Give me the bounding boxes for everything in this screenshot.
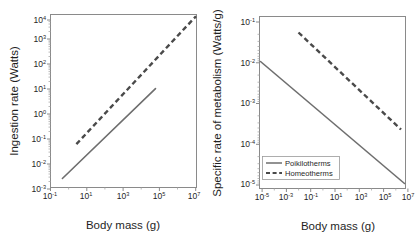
left-y-ticklabels: 10-3 10-2 10-1 100 101 102 103: [32, 15, 46, 194]
right-xtick-label: 103: [355, 192, 368, 202]
right-ytick-label: 10-1: [241, 17, 255, 27]
left-x-major-ticks: [51, 188, 196, 192]
left-xtick-label: 105: [153, 191, 166, 201]
right-y-ticklabels: 10-1 10-2 10-3 10-4 10-5: [241, 17, 255, 189]
right-xtick-label: 101: [330, 192, 343, 202]
right-series-homeotherms: [299, 33, 402, 130]
left-y-axis-title: Ingestion rate (Watts): [8, 46, 20, 156]
right-plot-svg: Specific rate of metabolism (Watts/g) Bo…: [205, 0, 415, 238]
right-ytick-label: 10-4: [241, 139, 255, 149]
left-xtick-label: 10-1: [43, 191, 57, 201]
left-ytick-label: 10-2: [32, 159, 46, 169]
right-x-axis-title: Body mass (g): [301, 220, 375, 232]
right-x-ticklabels: 10-5 10-3 10-1 101 103 105 107: [255, 192, 415, 202]
left-x-axis-title: Body mass (g): [86, 219, 160, 231]
figure-container: Ingestion rate (Watts) Body mass (g) 10-…: [0, 0, 415, 238]
left-plot-svg: Ingestion rate (Watts) Body mass (g) 10-…: [0, 0, 205, 238]
left-ytick-label: 100: [33, 109, 46, 119]
right-ytick-label: 10-3: [241, 98, 255, 108]
chart-panel-left: Ingestion rate (Watts) Body mass (g) 10-…: [0, 0, 205, 238]
left-ytick-label: 102: [33, 59, 46, 69]
right-xtick-label: 107: [402, 192, 415, 202]
legend-label-homeotherms: Homeotherms: [285, 169, 333, 178]
right-xtick-label: 10-1: [304, 192, 318, 202]
right-ytick-label: 10-2: [241, 58, 255, 68]
left-y-major-ticks: [47, 20, 51, 189]
right-xtick-label: 10-3: [279, 192, 293, 202]
left-series-homeotherms: [76, 16, 196, 144]
left-xtick-label: 107: [188, 191, 201, 201]
right-y-axis-title: Specific rate of metabolism (Watts/g): [211, 9, 223, 197]
right-ytick-label: 10-5: [241, 179, 255, 189]
left-x-ticklabels: 10-1 101 103 105 107: [43, 191, 201, 201]
legend-label-poikilotherms: Poikilotherms: [285, 159, 331, 168]
right-xtick-label: 105: [379, 192, 392, 202]
chart-panel-right: Specific rate of metabolism (Watts/g) Bo…: [205, 0, 415, 238]
left-xtick-label: 103: [117, 191, 130, 201]
legend: Poikilotherms Homeotherms: [263, 157, 340, 180]
left-ytick-label: 10-1: [32, 134, 46, 144]
left-ytick-label: 104: [33, 15, 46, 25]
right-xtick-label: 10-5: [255, 192, 269, 202]
left-ytick-label: 103: [33, 34, 46, 44]
left-ytick-label: 101: [33, 84, 46, 94]
left-series-poikilotherms: [62, 89, 155, 179]
left-xtick-label: 101: [80, 191, 93, 201]
